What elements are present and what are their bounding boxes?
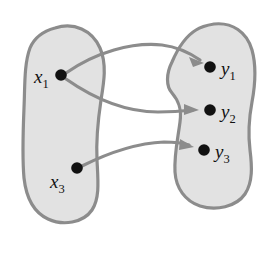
node-dot-x1[interactable] [55,69,67,81]
right-set-region [168,24,256,208]
set-mapping-diagram: x1 x3 y1 y2 y3 [0,0,276,254]
node-dot-x3[interactable] [71,162,83,174]
node-dot-y1[interactable] [204,61,216,73]
node-dot-y2[interactable] [204,104,216,116]
node-dot-y3[interactable] [198,144,210,156]
